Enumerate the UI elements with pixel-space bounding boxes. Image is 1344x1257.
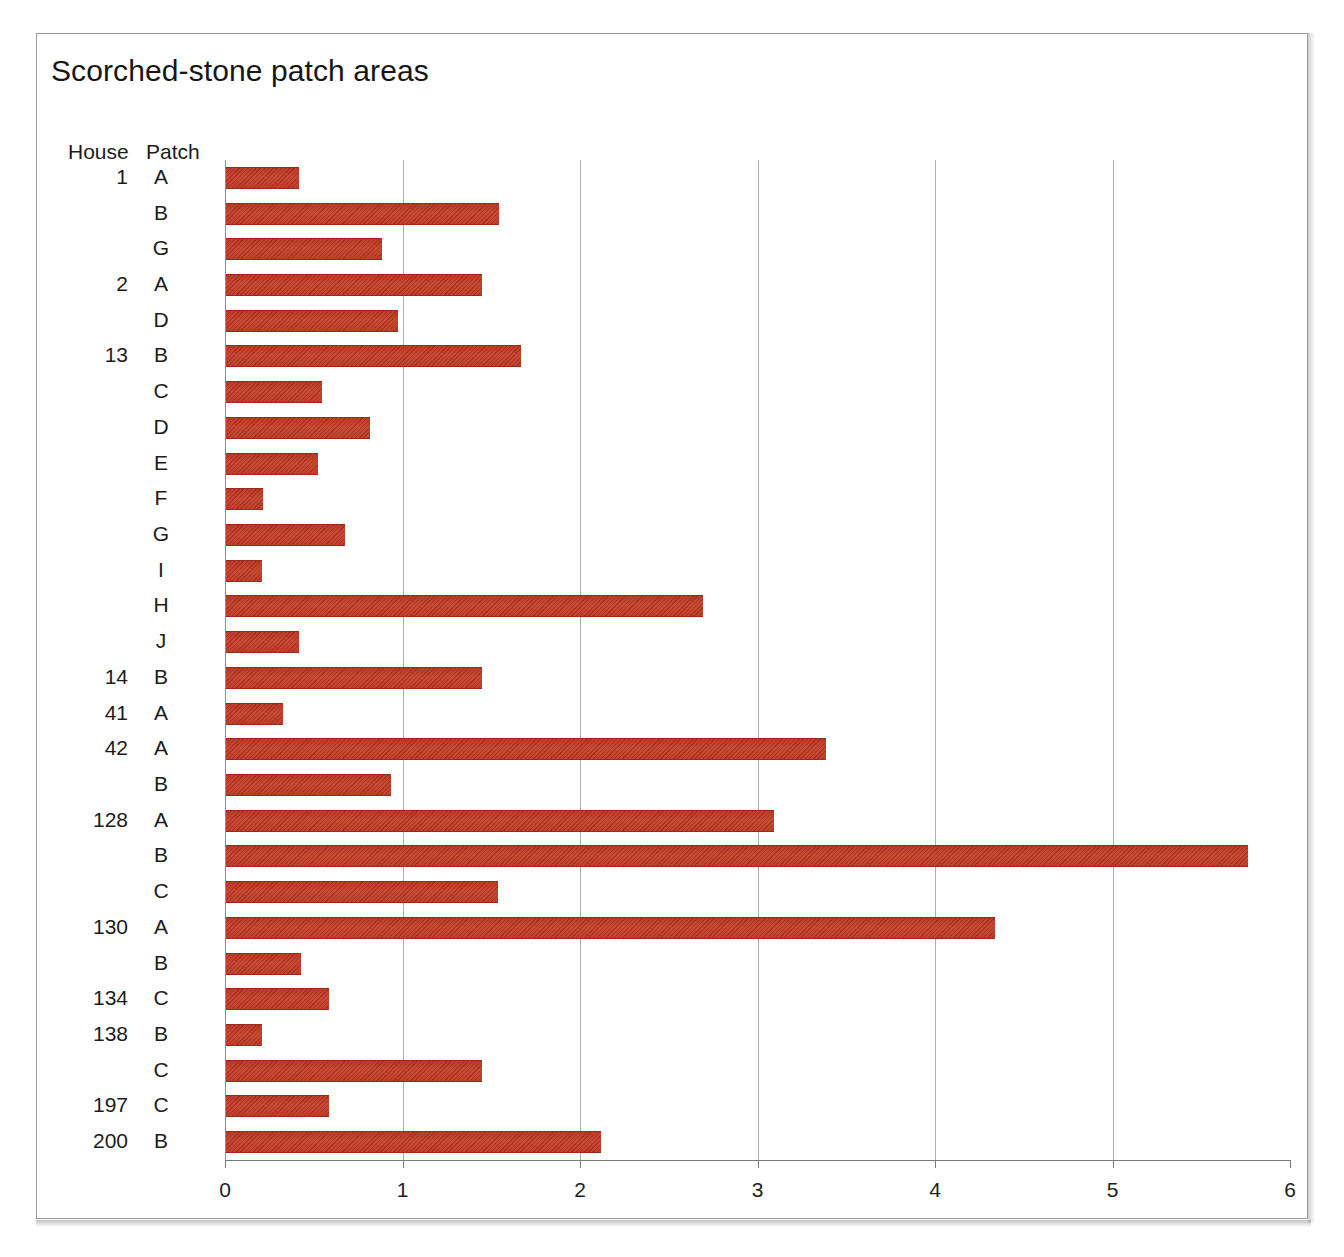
bar: [226, 381, 322, 403]
table-row: H: [0, 589, 1344, 625]
table-row: C: [0, 374, 1344, 410]
table-row: F: [0, 481, 1344, 517]
row-patch-label: A: [146, 736, 176, 760]
table-row: I: [0, 553, 1344, 589]
row-patch-label: J: [146, 629, 176, 653]
row-patch-label: C: [146, 1058, 176, 1082]
row-patch-label: F: [146, 486, 176, 510]
x-tick-label-0: 0: [219, 1178, 231, 1202]
row-house-label: 138: [60, 1022, 128, 1046]
table-row: 1A: [0, 160, 1344, 196]
table-row: G: [0, 231, 1344, 267]
figure-page: Scorched-stone patch areas House Patch 0…: [0, 0, 1344, 1257]
table-row: C: [0, 1053, 1344, 1089]
bar: [226, 203, 499, 225]
bar: [226, 631, 299, 653]
x-tick-3: [758, 1160, 759, 1168]
x-tick-label-6: 6: [1284, 1178, 1296, 1202]
table-row: 138B: [0, 1017, 1344, 1053]
row-house-label: 128: [60, 808, 128, 832]
row-patch-label: C: [146, 879, 176, 903]
page-title: Scorched-stone patch areas: [51, 54, 429, 88]
bar: [226, 1131, 601, 1153]
table-row: C: [0, 874, 1344, 910]
row-patch-label: D: [146, 415, 176, 439]
bar: [226, 917, 995, 939]
row-patch-label: A: [146, 701, 176, 725]
bar: [226, 881, 498, 903]
x-tick-label-2: 2: [574, 1178, 586, 1202]
x-tick-label-1: 1: [397, 1178, 409, 1202]
row-house-label: 14: [60, 665, 128, 689]
bar: [226, 703, 283, 725]
x-tick-6: [1290, 1160, 1291, 1168]
table-row: 197C: [0, 1089, 1344, 1125]
x-tick-1: [403, 1160, 404, 1168]
row-house-label: 197: [60, 1093, 128, 1117]
table-row: 200B: [0, 1124, 1344, 1160]
table-row: 128A: [0, 803, 1344, 839]
row-patch-label: B: [146, 951, 176, 975]
table-row: E: [0, 446, 1344, 482]
row-house-label: 42: [60, 736, 128, 760]
row-patch-label: B: [146, 1129, 176, 1153]
row-patch-label: E: [146, 451, 176, 475]
row-patch-label: C: [146, 379, 176, 403]
row-patch-label: B: [146, 343, 176, 367]
bar: [226, 345, 521, 367]
table-row: B: [0, 767, 1344, 803]
bar: [226, 238, 382, 260]
x-tick-label-3: 3: [752, 1178, 764, 1202]
table-row: J: [0, 624, 1344, 660]
bar: [226, 845, 1248, 867]
row-house-label: 1: [60, 165, 128, 189]
row-house-label: 134: [60, 986, 128, 1010]
row-house-label: 130: [60, 915, 128, 939]
row-house-label: 13: [60, 343, 128, 367]
table-row: 14B: [0, 660, 1344, 696]
table-row: D: [0, 410, 1344, 446]
row-patch-label: I: [146, 558, 176, 582]
x-tick-4: [935, 1160, 936, 1168]
bar: [226, 667, 482, 689]
row-patch-label: A: [146, 272, 176, 296]
bar: [226, 774, 391, 796]
bar: [226, 953, 301, 975]
bar: [226, 738, 826, 760]
bar: [226, 1060, 482, 1082]
bar: [226, 524, 345, 546]
x-tick-5: [1113, 1160, 1114, 1168]
bar: [226, 167, 299, 189]
row-patch-label: C: [146, 986, 176, 1010]
table-row: 13B: [0, 339, 1344, 375]
table-row: 2A: [0, 267, 1344, 303]
bar: [226, 274, 482, 296]
table-row: B: [0, 946, 1344, 982]
x-tick-0: [225, 1160, 226, 1168]
table-row: 42A: [0, 731, 1344, 767]
row-house-label: 41: [60, 701, 128, 725]
x-tick-2: [580, 1160, 581, 1168]
bar: [226, 595, 703, 617]
table-row: 130A: [0, 910, 1344, 946]
table-row: G: [0, 517, 1344, 553]
x-tick-label-4: 4: [929, 1178, 941, 1202]
row-patch-label: A: [146, 165, 176, 189]
table-row: B: [0, 196, 1344, 232]
row-patch-label: G: [146, 522, 176, 546]
row-patch-label: B: [146, 843, 176, 867]
row-patch-label: G: [146, 236, 176, 260]
table-row: 134C: [0, 981, 1344, 1017]
bar: [226, 310, 398, 332]
bar: [226, 453, 318, 475]
row-patch-label: B: [146, 772, 176, 796]
table-row: D: [0, 303, 1344, 339]
row-patch-label: C: [146, 1093, 176, 1117]
row-patch-label: A: [146, 808, 176, 832]
bar-rows: 1ABG2AD13BCDEFGIHJ14B41A42AB128ABC130AB1…: [0, 160, 1344, 1160]
table-row: B: [0, 839, 1344, 875]
row-patch-label: D: [146, 308, 176, 332]
bar: [226, 560, 262, 582]
bar: [226, 488, 263, 510]
scan-shadow-bottom: [36, 1220, 1311, 1227]
